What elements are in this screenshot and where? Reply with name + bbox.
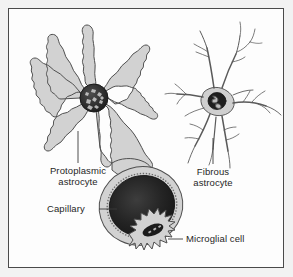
fibrous-astrocyte (165, 22, 281, 168)
label-protoplasmic-astrocyte: Protoplasmic astrocyte (28, 165, 128, 187)
fibrous-astrocyte-nucleus (208, 93, 226, 110)
label-fibrous-astrocyte: Fibrous astrocyte (178, 166, 248, 188)
label-microglial-cell: Microglial cell (186, 233, 276, 244)
protoplasmic-astrocyte (30, 25, 157, 183)
label-capillary: Capillary (47, 203, 101, 214)
figure-glial-cells: Protoplasmic astrocyte Fibrous astrocyte… (0, 0, 293, 277)
